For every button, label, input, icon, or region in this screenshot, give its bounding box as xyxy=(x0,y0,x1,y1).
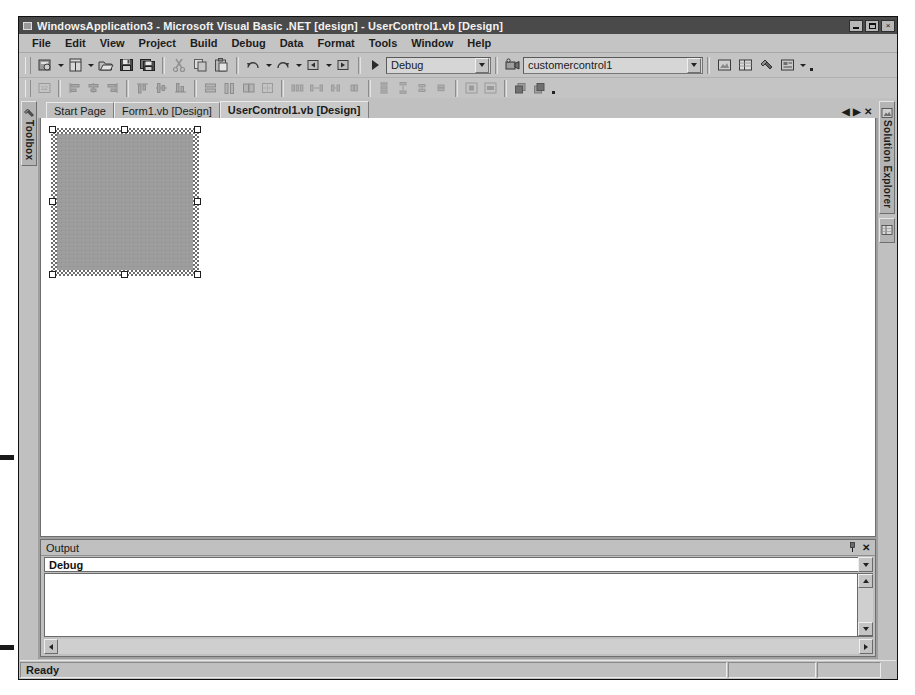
restore-button[interactable] xyxy=(865,20,879,32)
add-new-item-icon[interactable] xyxy=(65,55,86,75)
toolbox-icon[interactable] xyxy=(756,55,777,75)
scroll-left-button[interactable] xyxy=(44,639,58,654)
designer-surface[interactable] xyxy=(40,118,876,537)
menu-item-edit[interactable]: Edit xyxy=(58,36,93,50)
sidebar-item-solution-explorer[interactable]: Solution Explorer xyxy=(879,101,895,214)
navigate-forward-icon[interactable] xyxy=(333,55,354,75)
resize-handle-ne[interactable] xyxy=(194,126,201,133)
resize-grip[interactable] xyxy=(882,663,896,677)
output-vertical-scrollbar[interactable] xyxy=(857,574,873,636)
add-new-item-dropdown[interactable] xyxy=(86,55,95,75)
resize-handle-nw[interactable] xyxy=(49,126,56,133)
scroll-up-button[interactable] xyxy=(858,574,873,588)
menu-item-build[interactable]: Build xyxy=(183,36,225,50)
decrease-horizontal-spacing-icon[interactable] xyxy=(326,79,345,97)
menu-item-file[interactable]: File xyxy=(25,36,58,50)
decrease-vertical-spacing-icon[interactable] xyxy=(413,79,432,97)
usercontrol-design-body[interactable] xyxy=(57,134,193,270)
align-bottoms-icon[interactable] xyxy=(171,79,190,97)
save-all-icon[interactable] xyxy=(137,55,158,75)
make-horizontal-spacing-equal-icon[interactable] xyxy=(288,79,307,97)
scroll-track[interactable] xyxy=(858,588,873,622)
output-source-combo[interactable]: Debug xyxy=(44,557,858,572)
new-project-dropdown[interactable] xyxy=(56,55,65,75)
output-horizontal-scrollbar[interactable] xyxy=(44,639,873,654)
tab-next-icon[interactable]: ▶ xyxy=(853,107,861,117)
align-middles-icon[interactable] xyxy=(152,79,171,97)
cut-icon[interactable] xyxy=(169,55,190,75)
make-same-size-icon[interactable] xyxy=(239,79,258,97)
tab-prev-icon[interactable]: ◀ xyxy=(842,107,850,117)
bring-to-front-icon[interactable] xyxy=(511,79,530,97)
menu-item-format[interactable]: Format xyxy=(310,36,361,50)
align-tops-icon[interactable] xyxy=(133,79,152,97)
new-project-icon[interactable] xyxy=(35,55,56,75)
properties-window-icon[interactable] xyxy=(735,55,756,75)
menu-item-window[interactable]: Window xyxy=(404,36,460,50)
resize-handle-e[interactable] xyxy=(194,198,201,205)
center-vertically-icon[interactable] xyxy=(481,79,500,97)
tab-start-page[interactable]: Start Page xyxy=(46,102,114,118)
align-rights-icon[interactable] xyxy=(103,79,122,97)
class-view-icon[interactable] xyxy=(777,55,798,75)
redo-icon[interactable] xyxy=(273,55,294,75)
usercontrol-selection[interactable] xyxy=(51,128,199,276)
resize-handle-w[interactable] xyxy=(49,198,56,205)
navigate-back-dropdown[interactable] xyxy=(324,55,333,75)
resize-handle-sw[interactable] xyxy=(49,271,56,278)
chevron-down-icon[interactable] xyxy=(687,58,701,73)
tab-form1-design[interactable]: Form1.vb [Design] xyxy=(114,102,220,118)
find-target-combo[interactable]: customercontrol1 xyxy=(523,57,703,74)
copy-icon[interactable] xyxy=(190,55,211,75)
size-to-grid-icon[interactable] xyxy=(258,79,277,97)
redo-dropdown[interactable] xyxy=(294,55,303,75)
menu-item-project[interactable]: Project xyxy=(132,36,183,50)
remove-vertical-spacing-icon[interactable] xyxy=(432,79,451,97)
solution-configuration-combo[interactable]: Debug xyxy=(386,57,491,74)
align-centers-icon[interactable] xyxy=(84,79,103,97)
undo-icon[interactable] xyxy=(243,55,264,75)
center-horizontally-icon[interactable] xyxy=(462,79,481,97)
output-panel-title-bar[interactable]: Output ✕ xyxy=(41,540,875,556)
tab-order-icon[interactable]: 12 xyxy=(35,79,54,97)
layout-toolbar-options-handle[interactable] xyxy=(549,78,557,98)
output-text-area[interactable] xyxy=(44,573,873,637)
make-same-width-icon[interactable] xyxy=(201,79,220,97)
increase-vertical-spacing-icon[interactable] xyxy=(394,79,413,97)
scroll-right-button[interactable] xyxy=(859,639,873,654)
scroll-track-horizontal[interactable] xyxy=(58,639,859,654)
solution-explorer-icon[interactable] xyxy=(714,55,735,75)
find-target-icon[interactable] xyxy=(502,55,523,75)
start-debug-button[interactable] xyxy=(365,55,386,75)
toolbar-grip[interactable] xyxy=(25,80,31,97)
menu-item-data[interactable]: Data xyxy=(273,36,311,50)
close-icon[interactable]: ✕ xyxy=(864,107,872,117)
resize-handle-n[interactable] xyxy=(121,126,128,133)
align-lefts-icon[interactable] xyxy=(65,79,84,97)
paste-icon[interactable] xyxy=(211,55,232,75)
minimize-button[interactable] xyxy=(849,20,863,32)
toolbar-options-handle[interactable] xyxy=(807,55,815,75)
send-to-back-icon[interactable] xyxy=(530,79,549,97)
resize-handle-s[interactable] xyxy=(121,271,128,278)
make-same-height-icon[interactable] xyxy=(220,79,239,97)
sidebar-item-toolbox[interactable]: Toolbox xyxy=(21,101,37,166)
increase-horizontal-spacing-icon[interactable] xyxy=(307,79,326,97)
toolbar-overflow-dropdown[interactable] xyxy=(798,55,807,75)
open-file-icon[interactable] xyxy=(95,55,116,75)
chevron-down-icon[interactable] xyxy=(475,58,489,73)
close-icon[interactable]: ✕ xyxy=(859,541,872,554)
tab-usercontrol1-design[interactable]: UserControl1.vb [Design] xyxy=(220,101,369,118)
menu-item-help[interactable]: Help xyxy=(460,36,498,50)
menu-item-debug[interactable]: Debug xyxy=(224,36,272,50)
chevron-down-icon[interactable] xyxy=(858,557,873,572)
menu-item-tools[interactable]: Tools xyxy=(362,36,405,50)
resize-handle-se[interactable] xyxy=(194,271,201,278)
sidebar-item-properties[interactable] xyxy=(879,218,895,243)
toolbar-grip[interactable] xyxy=(25,57,31,74)
remove-horizontal-spacing-icon[interactable] xyxy=(345,79,364,97)
auto-hide-pin-icon[interactable] xyxy=(846,541,859,554)
save-icon[interactable] xyxy=(116,55,137,75)
scroll-down-button[interactable] xyxy=(858,622,873,636)
undo-dropdown[interactable] xyxy=(264,55,273,75)
